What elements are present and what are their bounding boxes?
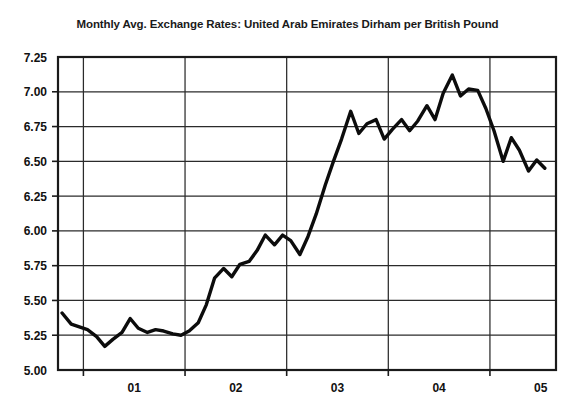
y-axis-label-0: 7.25 bbox=[24, 51, 48, 65]
x-axis-tick-labels: 0102030405 bbox=[128, 381, 548, 395]
y-axis-label-1: 7.00 bbox=[24, 85, 48, 99]
chart-page: Monthly Avg. Exchange Rates: United Arab… bbox=[0, 0, 575, 403]
y-axis-label-7: 5.50 bbox=[24, 294, 48, 308]
plot-area: 7.257.006.756.506.256.005.755.505.255.00… bbox=[0, 0, 575, 403]
line-chart-svg: 7.257.006.756.506.256.005.755.505.255.00… bbox=[0, 0, 575, 403]
x-axis-label-02: 02 bbox=[229, 381, 243, 395]
x-axis-label-03: 03 bbox=[331, 381, 345, 395]
y-axis-tick-labels: 7.257.006.756.506.256.005.755.505.255.00 bbox=[24, 51, 48, 378]
exchange-rate-line bbox=[62, 75, 545, 346]
vertical-gridlines bbox=[83, 57, 490, 370]
y-axis-label-2: 6.75 bbox=[24, 120, 48, 134]
horizontal-gridlines bbox=[58, 92, 556, 335]
y-axis-label-3: 6.50 bbox=[24, 155, 48, 169]
y-axis-label-6: 5.75 bbox=[24, 259, 48, 273]
y-axis-label-5: 6.00 bbox=[24, 224, 48, 238]
x-axis-label-01: 01 bbox=[128, 381, 142, 395]
y-axis-label-4: 6.25 bbox=[24, 190, 48, 204]
x-axis-label-05: 05 bbox=[534, 381, 548, 395]
axis-tick-marks bbox=[52, 92, 490, 376]
y-axis-label-8: 5.25 bbox=[24, 329, 48, 343]
y-axis-label-9: 5.00 bbox=[24, 364, 48, 378]
x-axis-label-04: 04 bbox=[432, 381, 446, 395]
